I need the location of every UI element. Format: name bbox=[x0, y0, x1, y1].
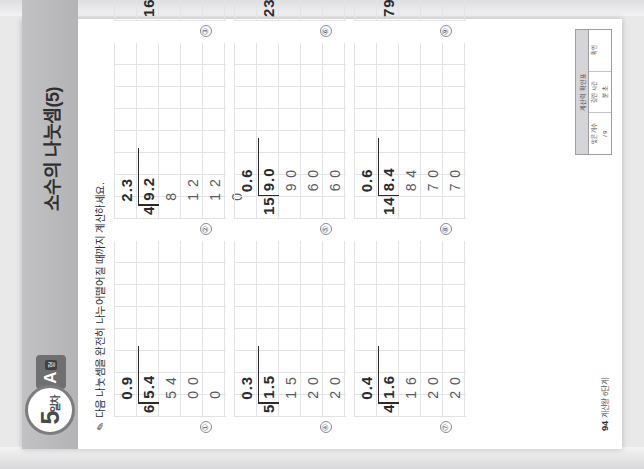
graph-paper: 23 0.307 7.061 6 9 1 6 1 1 6 1 0 bbox=[234, 0, 346, 21]
division-bracket: 0.3 1.5 1 5 2 0 2 0 bbox=[236, 375, 280, 404]
quotient: 0.6 bbox=[236, 168, 258, 192]
score-value-cell[interactable] bbox=[600, 30, 611, 71]
long-division: 16 0.409 6.54 6 4 1 4 4 1 4 4 0 bbox=[116, 0, 160, 17]
quotient-overbar bbox=[378, 138, 379, 196]
problem-item[interactable]: ⑧ 14 0.6 8.4 8 4 7 0 7 0 bbox=[354, 43, 472, 235]
long-division: 5 0.3 1.5 1 5 2 0 2 0 bbox=[236, 375, 280, 413]
long-division: 79 0.3 1.21 2 2 2 1 2 1 bbox=[356, 0, 400, 17]
quotient-overbar bbox=[258, 346, 259, 404]
dividend: 1.6 bbox=[378, 375, 400, 404]
page-footer: 94계산왕 6단계 bbox=[599, 378, 610, 431]
problem-grid: ① 6 0.9 5.4 5 4 0 0 0 bbox=[114, 0, 472, 433]
problem-number: ② bbox=[200, 223, 212, 235]
long-division: 15 0.6 9.0 9 0 6 0 6 0 bbox=[236, 167, 280, 215]
division-bracket: 0.4 1.6 1 6 2 0 2 0 bbox=[356, 375, 400, 404]
problem-number: ④ bbox=[320, 421, 332, 433]
scan-bottom-shadow bbox=[0, 447, 644, 469]
work-step: 1 2 bbox=[204, 178, 226, 205]
score-table-header-row: 맞은 개수 걸린 시간 확인 bbox=[589, 30, 600, 154]
quotient: 0.6 bbox=[356, 168, 378, 192]
work-steps: 1 6 2 0 2 0 bbox=[400, 376, 466, 403]
work-step: 2 0 bbox=[444, 376, 466, 403]
score-table-value-row[interactable]: / 9 분 초 bbox=[600, 30, 611, 154]
work-steps: 5 4 0 0 0 bbox=[160, 376, 226, 403]
problem-number: ⑧ bbox=[440, 223, 452, 235]
quotient: 0.3 bbox=[236, 376, 258, 400]
instruction-text: 다음 나눗셈을 완전히 나누어떨어질 때까지 계산하세요. bbox=[94, 182, 106, 418]
work-step: 7 0 bbox=[422, 169, 444, 196]
division-bracket: 0.6 8.4 8 4 7 0 7 0 bbox=[356, 167, 400, 196]
problem-number: ⑥ bbox=[320, 25, 332, 37]
work-step: 6 0 bbox=[324, 169, 346, 196]
graph-paper: 5 0.3 1.5 1 5 2 0 2 0 bbox=[234, 241, 346, 417]
dividend: 1.5 bbox=[258, 375, 280, 404]
divisor: 6 bbox=[116, 404, 160, 413]
graph-paper: 79 0.3 1.21 2 2 2 1 2 1 bbox=[354, 0, 466, 21]
problem-item[interactable]: ⑥ 23 0.307 7.061 6 9 1 6 1 1 6 1 bbox=[234, 0, 352, 37]
problem-number: ⑤ bbox=[320, 223, 332, 235]
score-header-cell: 확인 bbox=[589, 30, 600, 71]
dividend: 9.2 bbox=[138, 177, 160, 206]
dividend: 8.4 bbox=[378, 167, 400, 196]
dividend: 5.4 bbox=[138, 375, 160, 404]
long-division: 14 0.6 8.4 8 4 7 0 7 0 bbox=[356, 167, 400, 215]
divisor: 15 bbox=[236, 196, 280, 215]
graph-paper: 4 0.4 1.6 1 6 2 0 2 0 bbox=[354, 241, 466, 417]
day-number: 5 bbox=[36, 412, 64, 425]
graph-paper: 16 0.409 6.54 6 4 1 4 4 1 4 4 0 bbox=[114, 0, 226, 21]
division-bracket: 0.6 9.0 9 0 6 0 6 0 bbox=[236, 167, 280, 196]
quotient-overbar bbox=[138, 346, 139, 404]
graph-paper: 6 0.9 5.4 5 4 0 0 0 bbox=[114, 241, 226, 417]
day-badge: 5일차 bbox=[25, 385, 75, 435]
problem-item[interactable]: ① 6 0.9 5.4 5 4 0 0 0 bbox=[114, 241, 232, 433]
work-step: 2 0 bbox=[324, 376, 346, 403]
long-division: 23 0.307 7.061 6 9 1 6 1 1 6 1 0 bbox=[236, 0, 280, 17]
divisor: 14 bbox=[356, 196, 400, 215]
score-value-cell[interactable]: 분 초 bbox=[600, 71, 611, 113]
work-step: 6 0 bbox=[302, 169, 324, 196]
work-steps: 1 5 2 0 2 0 bbox=[280, 376, 346, 403]
score-header-cell: 걸린 시간 bbox=[589, 71, 600, 113]
problem-item[interactable]: ④ 5 0.3 1.5 1 5 2 0 2 0 bbox=[234, 241, 352, 433]
form-letter: A bbox=[41, 371, 61, 383]
graph-paper: 4 2.3 9.2 8 1 2 1 2 0 bbox=[114, 43, 226, 219]
footer-text: 계산왕 6단계 bbox=[601, 378, 610, 418]
work-step: 1 6 bbox=[400, 376, 422, 403]
problem-item[interactable]: ⑨ 79 0.3 1.21 2 2 2 1 2 1 bbox=[354, 0, 472, 37]
problem-item[interactable]: ⑦ 4 0.4 1.6 1 6 2 0 2 0 bbox=[354, 241, 472, 433]
division-bracket: 0.9 5.4 5 4 0 0 0 bbox=[116, 375, 160, 404]
score-header-cell: 맞은 개수 bbox=[589, 112, 600, 154]
problem-item[interactable]: ② 4 2.3 9.2 8 1 2 1 2 0 bbox=[114, 43, 232, 235]
work-step: 7 0 bbox=[444, 169, 466, 196]
long-division: 4 0.4 1.6 1 6 2 0 2 0 bbox=[356, 375, 400, 413]
work-step: 2 0 bbox=[422, 376, 444, 403]
instruction-row: ✎다음 나눗셈을 완전히 나누어떨어질 때까지 계산하세요. bbox=[92, 182, 107, 431]
quotient-overbar bbox=[258, 138, 259, 196]
score-value-cell[interactable]: / 9 bbox=[600, 112, 611, 154]
work-step: 1 2 bbox=[182, 178, 204, 205]
division-bracket: 2.3 9.2 8 1 2 1 2 0 bbox=[116, 177, 160, 206]
score-table-title: 계산력 확인표 bbox=[576, 30, 589, 154]
form-label: 형 bbox=[45, 360, 57, 370]
graph-paper: 14 0.6 8.4 8 4 7 0 7 0 bbox=[354, 43, 466, 219]
problem-item[interactable]: ⑤ 15 0.6 9.0 9 0 6 0 6 0 bbox=[234, 43, 352, 235]
work-step: 0 0 bbox=[182, 376, 204, 403]
quotient: 0.9 bbox=[116, 376, 138, 400]
work-step: 1 5 bbox=[280, 376, 302, 403]
long-division: 4 2.3 9.2 8 1 2 1 2 0 bbox=[116, 177, 160, 215]
work-steps: 9 0 6 0 6 0 bbox=[280, 169, 346, 196]
quotient: 0.4 bbox=[356, 376, 378, 400]
problem-number: ① bbox=[200, 421, 212, 433]
pencil-icon: ✎ bbox=[93, 421, 107, 432]
work-step: 9 0 bbox=[280, 169, 302, 196]
work-step: 2 0 bbox=[302, 376, 324, 403]
quotient: 2.3 bbox=[116, 178, 138, 202]
divisor: 4 bbox=[356, 404, 400, 413]
divisor: 79 bbox=[356, 0, 400, 17]
problem-number: ⑦ bbox=[440, 421, 452, 433]
work-steps: 8 4 7 0 7 0 bbox=[400, 169, 466, 196]
header-band: 소수의 나눗셈(5) A 형 5일차 이름 날짜 월 bbox=[22, 0, 78, 449]
graph-paper: 15 0.6 9.0 9 0 6 0 6 0 bbox=[234, 43, 346, 219]
problem-item[interactable]: ③ 16 0.409 6.54 6 4 1 4 4 1 4 4 0 bbox=[114, 0, 232, 37]
quotient-overbar bbox=[138, 148, 139, 206]
